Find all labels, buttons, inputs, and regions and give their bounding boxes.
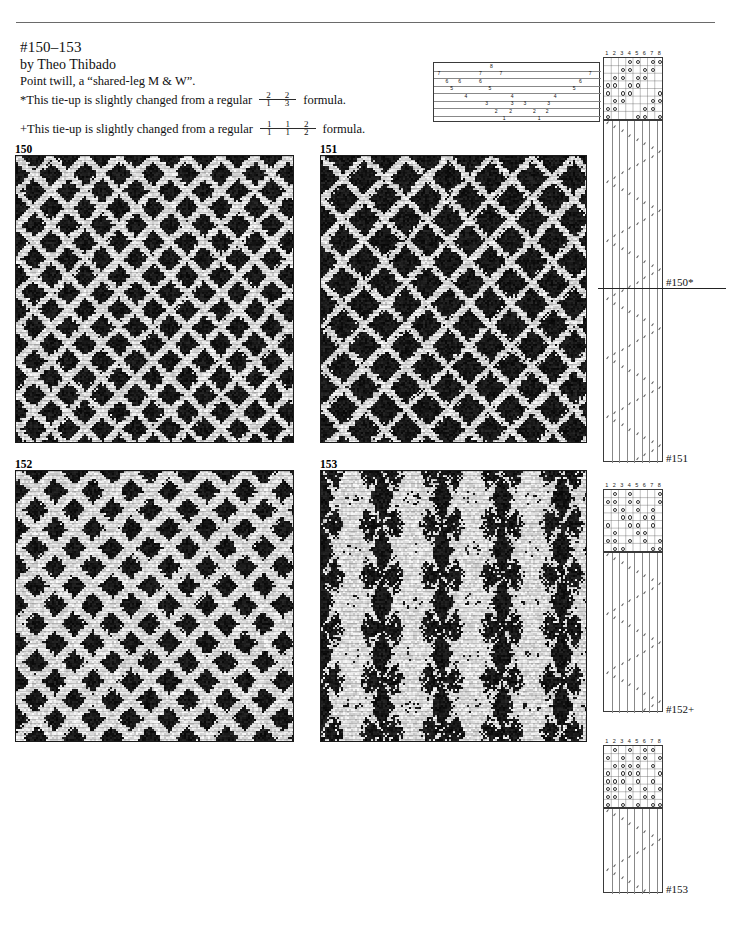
treadling-mark[interactable] <box>651 154 654 157</box>
threading-shaft-mark-6[interactable]: 6 <box>579 79 582 84</box>
treadling-mark[interactable] <box>651 272 654 275</box>
treadling-mark[interactable] <box>621 171 624 174</box>
treadling-mark[interactable] <box>651 331 654 334</box>
treadling-mark[interactable] <box>621 561 624 564</box>
tieup-cell-mark[interactable] <box>621 756 625 760</box>
tieup-cell-mark[interactable] <box>621 508 625 512</box>
treadling-mark[interactable] <box>628 658 631 661</box>
tieup-cell-mark[interactable] <box>621 91 625 95</box>
treadling-mark[interactable] <box>658 268 661 271</box>
treadling-mark[interactable] <box>636 687 639 690</box>
tieup-cell-mark[interactable] <box>651 515 655 519</box>
treadling-mark[interactable] <box>628 133 631 136</box>
treadling-mark[interactable] <box>613 301 616 304</box>
treadling-mark[interactable] <box>621 406 624 409</box>
tieup-cell-mark[interactable] <box>651 523 655 527</box>
threading-shaft-mark-4[interactable]: 4 <box>511 94 514 99</box>
tieup-cell-mark[interactable] <box>636 500 640 504</box>
treadling-mark[interactable] <box>636 339 639 342</box>
threading-shaft-mark-7[interactable]: 7 <box>438 71 441 76</box>
treadling-mark[interactable] <box>621 348 624 351</box>
threading-shaft-mark-7[interactable]: 7 <box>500 71 503 76</box>
tieup-cell-mark[interactable] <box>606 500 610 504</box>
treadling-mark[interactable] <box>651 704 654 707</box>
tieup-cell-mark[interactable] <box>636 771 640 775</box>
treadling-mark[interactable] <box>636 255 639 258</box>
tieup-cell-mark[interactable] <box>636 756 640 760</box>
treadling-mark[interactable] <box>651 637 654 640</box>
treadling-mark[interactable] <box>636 884 639 887</box>
treadling-mark[interactable] <box>613 872 616 875</box>
treadling-mark[interactable] <box>636 457 639 460</box>
treadling-mark[interactable] <box>606 553 609 556</box>
treadling-mark[interactable] <box>628 599 631 602</box>
treadling-mark[interactable] <box>628 251 631 254</box>
treadling-mark[interactable] <box>621 306 624 309</box>
treadling-mark[interactable] <box>643 394 646 397</box>
treadling-mark[interactable] <box>621 188 624 191</box>
treadling-mark[interactable] <box>636 314 639 317</box>
threading-shaft-mark-4[interactable]: 4 <box>554 94 557 99</box>
tieup-cell-mark[interactable] <box>628 91 632 95</box>
treadling-mark[interactable] <box>658 700 661 703</box>
treadling-mark[interactable] <box>628 821 631 824</box>
treadling-mark[interactable] <box>621 620 624 623</box>
threading-shaft-mark-5[interactable]: 5 <box>450 86 453 91</box>
tieup-cell-mark[interactable] <box>621 764 625 768</box>
treadling-mark[interactable] <box>613 419 616 422</box>
treadling-mark[interactable] <box>658 150 661 153</box>
treadling-mark[interactable] <box>651 381 654 384</box>
tieup-cell-mark[interactable] <box>636 83 640 87</box>
treadling-mark[interactable] <box>658 385 661 388</box>
treadling-mark[interactable] <box>658 582 661 585</box>
treadling-mark[interactable] <box>606 238 609 241</box>
treadling-mark[interactable] <box>606 868 609 871</box>
treadling-mark[interactable] <box>613 607 616 610</box>
tieup-cell-mark[interactable] <box>621 771 625 775</box>
tieup-cell-mark[interactable] <box>606 771 610 775</box>
tieup-cell-mark[interactable] <box>606 523 610 527</box>
treadling-mark[interactable] <box>613 234 616 237</box>
treadling-mark[interactable] <box>658 641 661 644</box>
treadling-mark[interactable] <box>643 708 646 711</box>
treadling-mark[interactable] <box>606 297 609 300</box>
treadling-mark[interactable] <box>651 842 654 845</box>
treadling-mark[interactable] <box>613 293 616 296</box>
threading-shaft-mark-3[interactable]: 3 <box>485 101 488 106</box>
treadling-mark[interactable] <box>621 247 624 250</box>
treadling-mark[interactable] <box>628 310 631 313</box>
treadling-mark[interactable] <box>658 838 661 841</box>
treadling-mark[interactable] <box>643 259 646 262</box>
treadling-mark[interactable] <box>651 586 654 589</box>
treadling-mark[interactable] <box>613 125 616 128</box>
treadling-mark[interactable] <box>651 578 654 581</box>
treadling-mark[interactable] <box>613 616 616 619</box>
treadling-mark[interactable] <box>628 855 631 858</box>
treadling-mark[interactable] <box>613 411 616 414</box>
treadling-mark[interactable] <box>643 830 646 833</box>
treadling-mark[interactable] <box>636 654 639 657</box>
treadling-mark[interactable] <box>613 557 616 560</box>
treadling-mark[interactable] <box>628 369 631 372</box>
tieup-cell-mark[interactable] <box>651 764 655 768</box>
treadling-mark[interactable] <box>613 863 616 866</box>
treadling-mark[interactable] <box>643 142 646 145</box>
treadling-mark[interactable] <box>636 138 639 141</box>
treadling-mark[interactable] <box>606 180 609 183</box>
tieup-cell-mark[interactable] <box>636 523 640 527</box>
treadling-mark[interactable] <box>613 675 616 678</box>
treadling-mark[interactable] <box>613 352 616 355</box>
treadling-mark[interactable] <box>628 565 631 568</box>
tieup-cell-mark[interactable] <box>621 68 625 72</box>
treadling-mark[interactable] <box>606 121 609 124</box>
tieup-cell-mark[interactable] <box>636 76 640 80</box>
treadling-mark[interactable] <box>643 276 646 279</box>
treadling-mark[interactable] <box>636 432 639 435</box>
treadling-mark[interactable] <box>606 809 609 812</box>
tieup-cell-mark[interactable] <box>628 523 632 527</box>
treadling-mark[interactable] <box>606 612 609 615</box>
treadling-mark[interactable] <box>628 880 631 883</box>
tieup-cell-mark[interactable] <box>651 508 655 512</box>
tieup-cell-mark[interactable] <box>651 68 655 72</box>
tieup-cell-mark[interactable] <box>636 779 640 783</box>
